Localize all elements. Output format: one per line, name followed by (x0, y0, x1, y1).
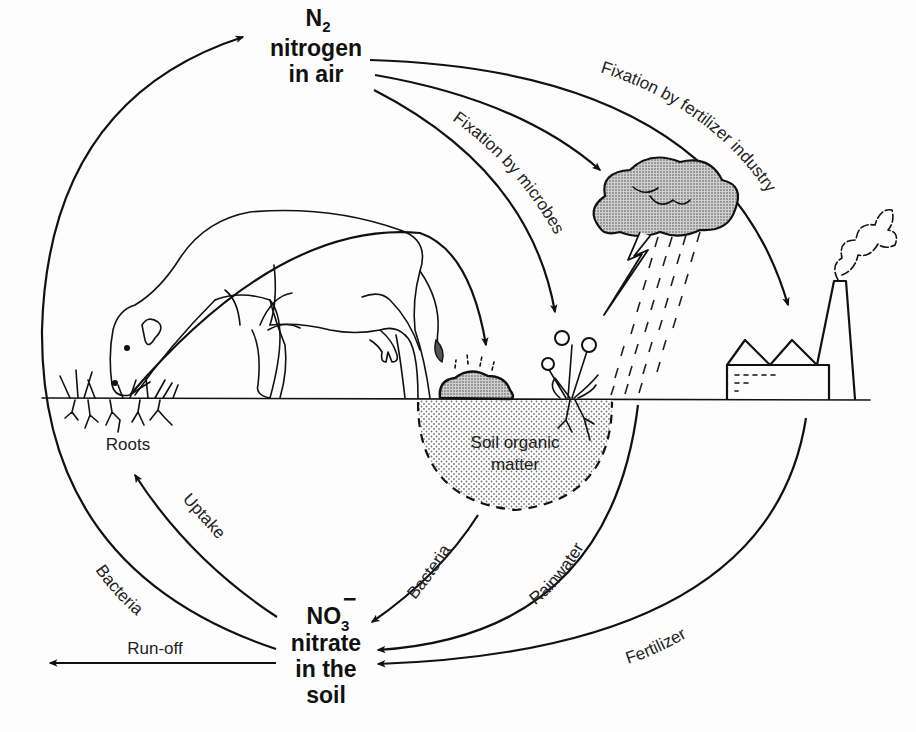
arrow-uptake (135, 475, 277, 617)
label-fixation-microbes: Fixation by microbes (450, 108, 569, 237)
nitrogen-in-air-node: N2 nitrogen in air (270, 5, 362, 87)
label-uptake: Uptake (179, 490, 229, 543)
cow-grazing-icon (110, 210, 443, 398)
lightning-bolt-icon (604, 232, 650, 315)
n2-formula: N (306, 5, 323, 31)
nitrogen-label: nitrogen (270, 35, 362, 61)
arrow-denitrification (42, 37, 276, 649)
soil-organic-matter-label: Soil organic (471, 433, 560, 452)
storm-cloud-icon (594, 158, 738, 237)
no3-formula: NO (307, 603, 342, 629)
factory-icon (727, 210, 896, 399)
label-fertilizer: Fertilizer (623, 624, 689, 668)
label-roots: Roots (106, 435, 150, 454)
label-bacteria-organic: Bacteria (403, 541, 454, 603)
svg-text:−: − (343, 586, 356, 612)
label-rainwater: Rainwater (526, 539, 588, 608)
nitrate-in-soil-node: NO3 − nitrate in the soil (291, 586, 361, 708)
in-the-label: in the (295, 656, 356, 682)
grass-and-roots-icon (60, 370, 178, 432)
manure-pile-icon (440, 354, 513, 399)
nitrate-label: nitrate (291, 630, 361, 656)
arrow-cow-to-manure (130, 232, 486, 395)
soil-organic-matter-label-2: matter (491, 455, 540, 474)
nitrogen-cycle-diagram: Soil organic matter N2 nitrogen in air N… (0, 0, 916, 732)
rain-icon (611, 232, 700, 395)
soil-label: soil (306, 682, 346, 708)
svg-text:N2: N2 (306, 5, 331, 35)
label-run-off: Run-off (127, 639, 183, 658)
label-bacteria-left: Bacteria (92, 561, 148, 619)
in-air-label: in air (289, 61, 344, 87)
